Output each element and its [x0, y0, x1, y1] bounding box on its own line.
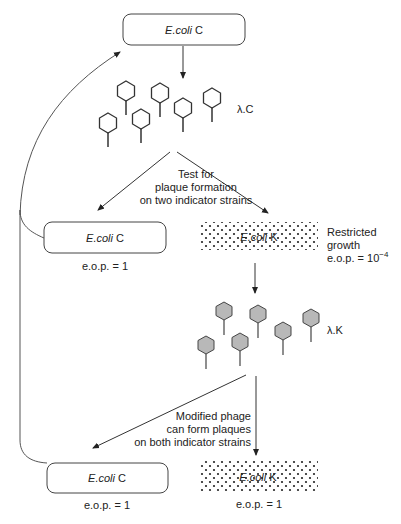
svg-text:plaque formation: plaque formation: [155, 181, 237, 193]
feedback-arrow-to-top: [20, 52, 120, 215]
svg-text:on two indicator strains: on two indicator strains: [140, 194, 253, 206]
mid-ecoli-k-box: E.coli K: [200, 222, 318, 250]
test-text: Test for plaque formation on two indicat…: [140, 168, 253, 206]
phage-k-cluster: [198, 302, 319, 369]
svg-text:E.coli C: E.coli C: [88, 472, 126, 484]
restricted-text: Restricted growth e.o.p. = 10−4: [327, 226, 389, 264]
svg-text:E.coli K: E.coli K: [239, 471, 277, 483]
svg-text:e.o.p. = 10−4: e.o.p. = 10−4: [327, 250, 389, 264]
modified-text: Modified phage can form plaques on both …: [134, 410, 251, 448]
bottom-ecoli-k-box: E.coli K: [200, 461, 318, 491]
svg-text:Modified phage: Modified phage: [176, 410, 251, 422]
svg-text:growth: growth: [327, 239, 360, 251]
phage-c-cluster: [100, 81, 221, 147]
phage-k-label: λ.K: [327, 324, 344, 336]
phage-c-label: λ.C: [237, 103, 254, 115]
svg-text:E.coli C: E.coli C: [165, 24, 203, 36]
svg-text:E.coli K: E.coli K: [240, 231, 278, 243]
svg-text:on both indicator strains: on both indicator strains: [134, 436, 251, 448]
bottom-left-eop: e.o.p. = 1: [84, 499, 130, 511]
feedback-line-bottom: [20, 210, 47, 463]
bottom-right-eop: e.o.p. = 1: [236, 498, 282, 510]
svg-text:Restricted: Restricted: [327, 226, 377, 238]
restriction-modification-diagram: E.coli C λ.C Test for plaque formation o…: [0, 0, 401, 524]
bottom-ecoli-c-box: E.coli C: [47, 463, 168, 493]
mid-ecoli-c-box: E.coli C: [44, 222, 166, 253]
top-ecoli-c-box: E.coli C: [123, 14, 245, 45]
mid-left-eop: e.o.p. = 1: [82, 260, 128, 272]
svg-text:can form plaques: can form plaques: [167, 423, 252, 435]
svg-text:E.coli C: E.coli C: [86, 232, 124, 244]
svg-text:Test for: Test for: [178, 168, 214, 180]
